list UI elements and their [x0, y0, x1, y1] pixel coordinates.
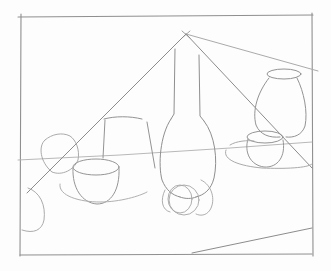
bowl: [60, 159, 147, 204]
frame: [18, 13, 313, 256]
vase: [255, 69, 306, 137]
cylinder-cup: [103, 117, 155, 168]
left-spheres: [22, 134, 79, 232]
bottle: [160, 49, 216, 199]
spheres: [162, 180, 213, 215]
table-edge: [192, 228, 312, 253]
still-life-sketch: Pencil still-life construction sketch: [0, 0, 331, 271]
